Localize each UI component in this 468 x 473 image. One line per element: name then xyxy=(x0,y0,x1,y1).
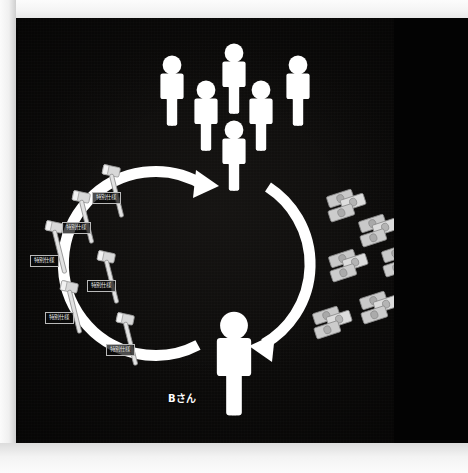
cash-6 xyxy=(309,303,354,339)
diagram-stage: 特別仕様 特別仕様 特別仕様 特別仕様 特別仕様 特別仕様 Bさん xyxy=(0,0,468,473)
person-b-label: Bさん xyxy=(168,390,196,405)
crowd-person-2 xyxy=(194,81,217,151)
crowd-person-4 xyxy=(249,81,272,151)
frame-right-dark xyxy=(394,14,468,446)
gavel-label-3: 特別仕様 xyxy=(30,255,59,267)
crowd-person-3 xyxy=(222,44,245,114)
gavel-label-6: 特別仕様 xyxy=(106,344,135,356)
crowd-person-1 xyxy=(160,56,183,126)
gavel-4 xyxy=(89,250,129,304)
frame-bottom-band xyxy=(0,443,468,473)
frame-left-band xyxy=(0,0,16,473)
cycle-arrowhead-bottom xyxy=(249,334,275,362)
cash-4 xyxy=(325,246,370,282)
cycle-arc-right xyxy=(264,187,310,344)
person-b-figure xyxy=(217,312,251,416)
crowd-person-5 xyxy=(286,56,309,126)
gavel-label-5: 特別仕様 xyxy=(45,312,74,324)
cash-1 xyxy=(323,186,368,222)
cycle-top-person xyxy=(222,121,245,191)
gavel-label-1: 特別仕様 xyxy=(92,192,121,204)
gavel-label-4: 特別仕様 xyxy=(87,280,116,292)
gavel-label-2: 特別仕様 xyxy=(62,222,91,234)
frame-top-band xyxy=(0,0,468,18)
cycle-arrowhead-top xyxy=(193,170,219,198)
